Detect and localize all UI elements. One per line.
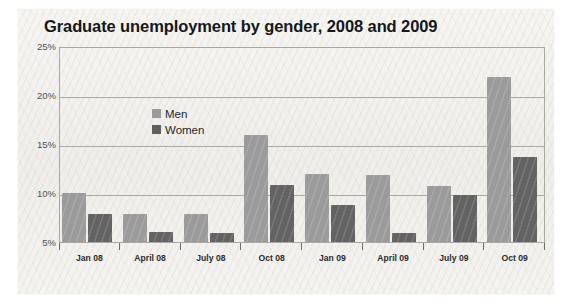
- chart-figure: Graduate unemployment by gender, 2008 an…: [0, 0, 572, 305]
- men-swatch-icon: [152, 109, 161, 118]
- bar-men: [184, 214, 208, 242]
- bar-women: [331, 205, 355, 242]
- x-tick-label: Oct 08: [241, 253, 302, 263]
- bar-group: [60, 48, 121, 242]
- x-axis-tick: [240, 243, 241, 250]
- x-tick-label: Jan 09: [302, 253, 363, 263]
- legend-label-women: Women: [165, 124, 204, 136]
- bar-men: [62, 193, 86, 242]
- bar-men: [487, 77, 511, 242]
- x-axis-tick: [423, 243, 424, 250]
- y-axis-labels: 25%20%15%10%5%: [18, 0, 56, 305]
- x-axis-tick: [119, 243, 120, 250]
- bar-women: [453, 195, 477, 242]
- bar-men: [244, 135, 268, 242]
- bar-women: [513, 157, 537, 242]
- x-tick-label: July 09: [424, 253, 485, 263]
- bar-group: [242, 48, 303, 242]
- chart-title: Graduate unemployment by gender, 2008 an…: [44, 17, 514, 36]
- x-tick-label: Jan 08: [59, 253, 120, 263]
- y-tick-label: 15%: [22, 139, 56, 150]
- women-swatch-icon: [152, 125, 161, 134]
- bar-women: [392, 233, 416, 242]
- bar-men: [305, 174, 329, 242]
- legend-label-men: Men: [165, 108, 187, 120]
- x-axis-tick: [180, 243, 181, 250]
- bar-women: [149, 232, 173, 242]
- x-tick-label: April 08: [120, 253, 181, 263]
- y-tick-label: 5%: [22, 237, 56, 248]
- y-tick-label: 10%: [22, 188, 56, 199]
- x-axis-tick: [59, 243, 60, 250]
- x-tick-label: July 08: [181, 253, 242, 263]
- x-tick-label: April 09: [363, 253, 424, 263]
- bar-men: [123, 214, 147, 242]
- bar-men: [427, 186, 451, 242]
- legend-item-women: Women: [152, 122, 262, 137]
- bar-group: [364, 48, 425, 242]
- bar-women: [270, 185, 294, 242]
- x-axis-tick: [362, 243, 363, 250]
- bar-women: [88, 214, 112, 242]
- bar-group: [121, 48, 182, 242]
- bars-container: [60, 48, 544, 242]
- bar-men: [366, 175, 390, 242]
- x-tick-label: Oct 09: [484, 253, 545, 263]
- plot-area: Men Women: [59, 47, 545, 243]
- bar-group: [485, 48, 546, 242]
- legend-item-men: Men: [152, 106, 262, 121]
- bar-group: [303, 48, 364, 242]
- x-axis-tick: [483, 243, 484, 250]
- chart-legend: Men Women: [152, 106, 262, 138]
- bar-group: [182, 48, 243, 242]
- x-axis-tick: [544, 243, 545, 250]
- x-axis-tick: [301, 243, 302, 250]
- bar-women: [210, 233, 234, 242]
- y-tick-label: 25%: [22, 41, 56, 52]
- bar-group: [425, 48, 486, 242]
- y-tick-label: 20%: [22, 90, 56, 101]
